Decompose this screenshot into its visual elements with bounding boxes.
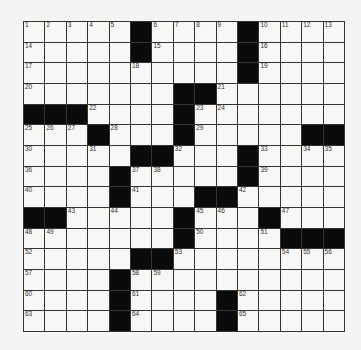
grid-cell[interactable]: [259, 187, 279, 207]
grid-cell[interactable]: 62: [238, 291, 258, 311]
grid-cell[interactable]: [259, 249, 279, 269]
grid-cell[interactable]: [324, 291, 344, 311]
grid-cell[interactable]: [238, 249, 258, 269]
grid-cell[interactable]: [195, 270, 215, 290]
grid-cell[interactable]: 29: [195, 125, 215, 145]
grid-cell[interactable]: [152, 63, 172, 83]
grid-cell[interactable]: [238, 84, 258, 104]
grid-cell[interactable]: [281, 125, 301, 145]
grid-cell[interactable]: [281, 63, 301, 83]
grid-cell[interactable]: 59: [152, 270, 172, 290]
grid-cell[interactable]: 14: [24, 43, 44, 63]
grid-cell[interactable]: [110, 43, 130, 63]
grid-cell[interactable]: [281, 187, 301, 207]
grid-cell[interactable]: 22: [88, 105, 108, 125]
grid-cell[interactable]: [324, 270, 344, 290]
grid-cell[interactable]: [259, 105, 279, 125]
grid-cell[interactable]: [67, 291, 87, 311]
grid-cell[interactable]: 8: [195, 22, 215, 42]
grid-cell[interactable]: [45, 249, 65, 269]
grid-cell[interactable]: 55: [302, 249, 322, 269]
grid-cell[interactable]: [195, 43, 215, 63]
grid-cell[interactable]: 25: [24, 125, 44, 145]
grid-cell[interactable]: [131, 105, 151, 125]
grid-cell[interactable]: 63: [24, 311, 44, 331]
grid-cell[interactable]: [45, 167, 65, 187]
grid-cell[interactable]: 18: [131, 63, 151, 83]
grid-cell[interactable]: [131, 84, 151, 104]
grid-cell[interactable]: [302, 208, 322, 228]
grid-cell[interactable]: [324, 208, 344, 228]
grid-cell[interactable]: [217, 270, 237, 290]
grid-cell[interactable]: 54: [281, 249, 301, 269]
grid-cell[interactable]: [152, 311, 172, 331]
grid-cell[interactable]: [45, 43, 65, 63]
grid-cell[interactable]: [302, 63, 322, 83]
grid-cell[interactable]: 33: [259, 146, 279, 166]
grid-cell[interactable]: [174, 311, 194, 331]
grid-cell[interactable]: 3: [67, 22, 87, 42]
grid-cell[interactable]: [67, 146, 87, 166]
grid-cell[interactable]: 47: [281, 208, 301, 228]
grid-cell[interactable]: 4: [88, 22, 108, 42]
grid-cell[interactable]: 21: [217, 84, 237, 104]
grid-cell[interactable]: [45, 311, 65, 331]
grid-cell[interactable]: [324, 84, 344, 104]
grid-cell[interactable]: 12: [302, 22, 322, 42]
grid-cell[interactable]: 51: [259, 229, 279, 249]
grid-cell[interactable]: [238, 208, 258, 228]
grid-cell[interactable]: 65: [238, 311, 258, 331]
grid-cell[interactable]: [195, 146, 215, 166]
grid-cell[interactable]: 32: [174, 146, 194, 166]
grid-cell[interactable]: [195, 167, 215, 187]
grid-cell[interactable]: [88, 63, 108, 83]
grid-cell[interactable]: [195, 63, 215, 83]
grid-cell[interactable]: 64: [131, 311, 151, 331]
grid-cell[interactable]: 30: [24, 146, 44, 166]
grid-cell[interactable]: [88, 187, 108, 207]
grid-cell[interactable]: [88, 167, 108, 187]
grid-cell[interactable]: [110, 229, 130, 249]
grid-cell[interactable]: [238, 105, 258, 125]
grid-cell[interactable]: [217, 43, 237, 63]
grid-cell[interactable]: 38: [152, 167, 172, 187]
grid-cell[interactable]: [324, 43, 344, 63]
grid-cell[interactable]: [110, 249, 130, 269]
grid-cell[interactable]: [217, 63, 237, 83]
grid-cell[interactable]: [195, 249, 215, 269]
grid-cell[interactable]: [302, 270, 322, 290]
grid-cell[interactable]: [67, 270, 87, 290]
grid-cell[interactable]: 44: [110, 208, 130, 228]
grid-cell[interactable]: [174, 63, 194, 83]
grid-cell[interactable]: [217, 146, 237, 166]
grid-cell[interactable]: 48: [24, 229, 44, 249]
grid-cell[interactable]: [259, 125, 279, 145]
grid-cell[interactable]: [302, 167, 322, 187]
grid-cell[interactable]: 40: [24, 187, 44, 207]
grid-cell[interactable]: [174, 43, 194, 63]
grid-cell[interactable]: 10: [259, 22, 279, 42]
grid-cell[interactable]: [152, 125, 172, 145]
grid-cell[interactable]: 23: [195, 105, 215, 125]
grid-cell[interactable]: [281, 146, 301, 166]
grid-cell[interactable]: [217, 249, 237, 269]
grid-cell[interactable]: [45, 270, 65, 290]
grid-cell[interactable]: [88, 311, 108, 331]
grid-cell[interactable]: 35: [324, 146, 344, 166]
grid-cell[interactable]: 34: [302, 146, 322, 166]
grid-cell[interactable]: [324, 63, 344, 83]
grid-cell[interactable]: 2: [45, 22, 65, 42]
grid-cell[interactable]: [45, 84, 65, 104]
grid-cell[interactable]: [174, 291, 194, 311]
grid-cell[interactable]: [45, 187, 65, 207]
grid-cell[interactable]: [238, 125, 258, 145]
grid-cell[interactable]: [195, 291, 215, 311]
grid-cell[interactable]: [45, 146, 65, 166]
grid-cell[interactable]: 17: [24, 63, 44, 83]
grid-cell[interactable]: [281, 291, 301, 311]
grid-cell[interactable]: [67, 229, 87, 249]
grid-cell[interactable]: 43: [67, 208, 87, 228]
grid-cell[interactable]: [88, 229, 108, 249]
grid-cell[interactable]: 56: [324, 249, 344, 269]
grid-cell[interactable]: [67, 187, 87, 207]
